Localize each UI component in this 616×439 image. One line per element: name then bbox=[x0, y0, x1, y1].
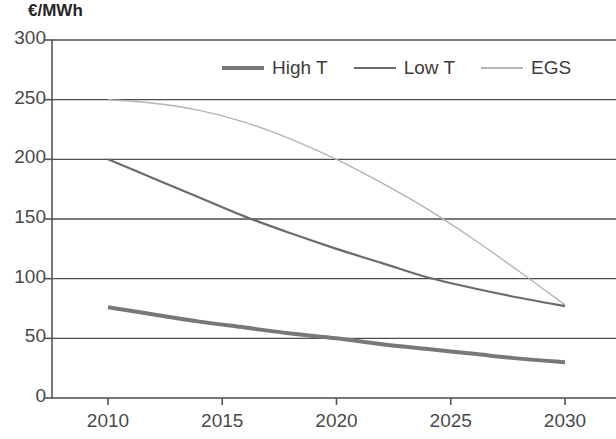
x-axis-tick-label: 2015 bbox=[201, 410, 243, 432]
chart-legend: High TLow TEGS bbox=[222, 56, 597, 80]
legend-item-egs[interactable]: EGS bbox=[481, 57, 597, 79]
x-axis-ticks bbox=[108, 398, 565, 405]
x-axis-tick-label: 2020 bbox=[315, 410, 357, 432]
legend-item-low-t[interactable]: Low T bbox=[354, 57, 481, 79]
legend-label: Low T bbox=[404, 57, 455, 79]
legend-label: EGS bbox=[531, 57, 571, 79]
legend-swatch-icon bbox=[222, 66, 264, 70]
series-line-low-t bbox=[108, 159, 565, 306]
series-lines bbox=[108, 100, 565, 363]
legend-swatch-icon bbox=[354, 67, 396, 69]
gridlines bbox=[52, 40, 616, 398]
series-line-high-t bbox=[108, 307, 565, 362]
legend-item-high-t[interactable]: High T bbox=[222, 57, 354, 79]
line-chart: €/MWh 300250200150100500 201020152020202… bbox=[0, 0, 616, 439]
x-axis-tick-label: 2030 bbox=[544, 410, 586, 432]
x-axis-tick-label: 2010 bbox=[87, 410, 129, 432]
series-line-egs bbox=[108, 100, 565, 305]
legend-label: High T bbox=[272, 57, 328, 79]
x-axis-tick-label: 2025 bbox=[430, 410, 472, 432]
legend-swatch-icon bbox=[481, 67, 523, 68]
